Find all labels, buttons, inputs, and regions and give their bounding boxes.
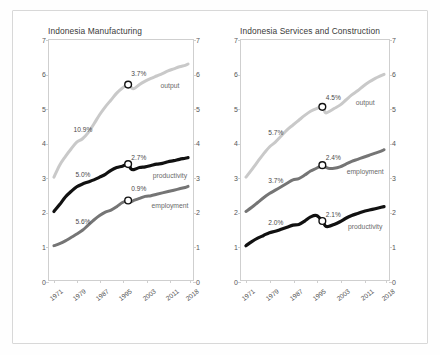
panel-title-services: Indonesia Services and Construction (240, 26, 380, 36)
growth-label-before-employment: 5.6% (75, 217, 90, 224)
panel-manufacturing: Indonesia Manufacturing 0011223344556677… (30, 26, 210, 310)
ytick-mark-left-6 (46, 75, 49, 76)
growth-label-before-output: 5.7% (268, 129, 283, 136)
ytick-mark-right-7 (193, 40, 196, 41)
ytick-mark-left-0 (238, 282, 241, 283)
xtick-mark-1979 (77, 280, 78, 283)
series-label-output: output (161, 81, 180, 88)
ytick-mark-right-1 (389, 247, 392, 248)
series-lines-services (241, 40, 389, 280)
ytick-mark-left-4 (46, 144, 49, 145)
growth-label-after-employment: 2.4% (326, 154, 341, 161)
plot-area-manufacturing: 0011223344556677197119791987199520032011… (48, 39, 194, 281)
ytick-label-right-2: 2 (392, 209, 396, 216)
growth-label-after-output: 3.7% (131, 69, 146, 76)
growth-label-before-productivity: 5.0% (75, 171, 90, 178)
xtick-label-1971: 1971 (240, 287, 256, 302)
plot-area-services: 0011223344556677197119791987199520032011… (240, 39, 390, 281)
ytick-mark-left-3 (46, 178, 49, 179)
xtick-label-2018: 2018 (380, 287, 396, 302)
ytick-label-right-3: 3 (392, 175, 396, 182)
xtick-label-1987: 1987 (95, 287, 111, 302)
xtick-mark-1979 (270, 280, 271, 283)
xtick-mark-2011 (170, 280, 171, 283)
crisis-marker-productivity (125, 161, 132, 168)
ytick-label-right-5: 5 (392, 106, 396, 113)
xtick-label-1979: 1979 (264, 287, 280, 302)
ytick-mark-left-7 (46, 40, 49, 41)
ytick-mark-left-1 (46, 247, 49, 248)
xtick-label-1995: 1995 (118, 287, 134, 302)
ytick-mark-left-2 (238, 213, 241, 214)
crisis-marker-productivity (319, 218, 326, 225)
xtick-label-1971: 1971 (48, 287, 64, 302)
ytick-mark-right-3 (389, 178, 392, 179)
series-label-productivity: productivity (348, 222, 382, 229)
ytick-label-right-1: 1 (196, 244, 200, 251)
xtick-mark-2003 (341, 280, 342, 283)
ytick-label-right-1: 1 (392, 244, 396, 251)
crisis-marker-employment (125, 197, 132, 204)
xtick-label-2003: 2003 (336, 287, 352, 302)
ytick-mark-left-7 (238, 40, 241, 41)
ytick-mark-right-5 (389, 109, 392, 110)
xtick-mark-2011 (365, 280, 366, 283)
series-label-productivity: productivity (153, 172, 187, 179)
ytick-label-right-7: 7 (196, 37, 200, 44)
xtick-label-1987: 1987 (288, 287, 304, 302)
ytick-mark-right-0 (389, 282, 392, 283)
ytick-mark-right-6 (389, 75, 392, 76)
ytick-mark-left-1 (238, 247, 241, 248)
ytick-label-right-3: 3 (196, 175, 200, 182)
ytick-mark-left-2 (46, 213, 49, 214)
crisis-marker-output (125, 81, 132, 88)
ytick-mark-right-6 (193, 75, 196, 76)
ytick-mark-right-2 (193, 213, 196, 214)
growth-label-before-output: 10.9% (74, 125, 93, 132)
xtick-mark-1995 (317, 280, 318, 283)
panel-services: Indonesia Services and Construction 0011… (222, 26, 406, 310)
xtick-label-1979: 1979 (71, 287, 87, 302)
ytick-mark-right-5 (193, 109, 196, 110)
ytick-mark-right-1 (193, 247, 196, 248)
xtick-label-1995: 1995 (312, 287, 328, 302)
series-lines-manufacturing (49, 40, 193, 280)
ytick-label-right-6: 6 (392, 71, 396, 78)
ytick-label-right-2: 2 (196, 209, 200, 216)
xtick-mark-1971 (246, 280, 247, 283)
ytick-mark-left-3 (238, 178, 241, 179)
panel-title-manufacturing: Indonesia Manufacturing (48, 26, 142, 36)
ytick-mark-right-4 (193, 144, 196, 145)
ytick-label-right-7: 7 (392, 37, 396, 44)
ytick-mark-right-4 (389, 144, 392, 145)
xtick-label-2018: 2018 (184, 287, 200, 302)
xtick-mark-1971 (54, 280, 55, 283)
ytick-label-right-0: 0 (196, 279, 200, 286)
ytick-label-right-4: 4 (196, 140, 200, 147)
xtick-label-2003: 2003 (141, 287, 157, 302)
series-label-output: output (356, 99, 375, 106)
line-employment (54, 186, 188, 245)
growth-label-after-employment: 0.9% (131, 184, 146, 191)
ytick-mark-left-5 (46, 109, 49, 110)
xtick-label-2011: 2011 (360, 288, 375, 302)
xtick-mark-2018 (190, 280, 191, 283)
ytick-mark-left-4 (238, 144, 241, 145)
xtick-mark-2003 (147, 280, 148, 283)
growth-label-before-employment: 3.7% (268, 177, 283, 184)
ytick-mark-left-0 (46, 282, 49, 283)
figure-root: Indonesia Manufacturing 0011223344556677… (0, 0, 440, 355)
ytick-label-right-5: 5 (196, 106, 200, 113)
ytick-mark-right-2 (389, 213, 392, 214)
series-label-employment: employment (151, 202, 188, 209)
growth-label-after-productivity: 2.1% (326, 210, 341, 217)
line-output (246, 74, 384, 177)
growth-label-after-productivity: 2.7% (131, 153, 146, 160)
ytick-mark-right-0 (193, 282, 196, 283)
ytick-mark-right-3 (193, 178, 196, 179)
line-employment (246, 150, 384, 212)
series-label-employment: employment (347, 168, 384, 175)
crisis-marker-employment (319, 162, 326, 169)
xtick-mark-1987 (294, 280, 295, 283)
ytick-mark-left-6 (238, 75, 241, 76)
